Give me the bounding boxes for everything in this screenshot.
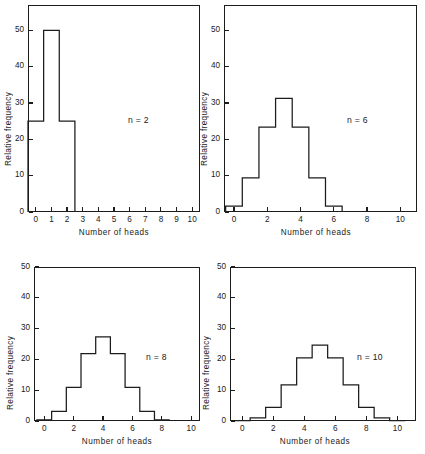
y-axis-tick <box>231 359 235 360</box>
y-axis-tick <box>225 66 229 67</box>
x-axis-tick <box>273 416 274 420</box>
y-axis-tick <box>225 139 229 140</box>
y-axis-tick <box>231 390 235 391</box>
x-axis-tick <box>300 207 301 211</box>
y-axis-tick <box>35 297 39 298</box>
x-axis-tick <box>176 207 177 211</box>
x-axis-tick <box>73 416 74 420</box>
y-axis-tick-label: 20 <box>10 354 30 363</box>
y-axis-tick-label: 0 <box>10 416 30 425</box>
x-axis-tick <box>397 416 398 420</box>
x-axis-tick-label: 0 <box>34 424 54 433</box>
x-axis-tick <box>191 416 192 420</box>
y-axis-tick-label: 0 <box>4 207 24 216</box>
y-axis-tick-label: 20 <box>200 134 220 143</box>
x-axis-tick-label: 0 <box>232 424 252 433</box>
y-axis-tick-label: 10 <box>200 170 220 179</box>
y-axis-tick <box>29 139 33 140</box>
x-axis-tick-label: 8 <box>152 424 172 433</box>
x-axis-tick <box>98 207 99 211</box>
y-axis-tick-label: 50 <box>206 262 226 271</box>
y-axis-tick <box>35 359 39 360</box>
y-axis-tick-label: 10 <box>10 385 30 394</box>
x-axis-tick <box>35 207 36 211</box>
chart-panel-n2: n = 2 <box>28 5 200 212</box>
y-axis-tick-label: 20 <box>206 354 226 363</box>
y-axis-label-n2: Relative frequency <box>4 56 13 166</box>
y-axis-tick <box>29 102 33 103</box>
x-axis-tick-label: 2 <box>64 424 84 433</box>
sample-size-annotation: n = 2 <box>128 115 149 125</box>
x-axis-tick <box>242 416 243 420</box>
x-axis-label-n8: Number of heads <box>57 437 177 446</box>
x-axis-tick <box>267 207 268 211</box>
x-axis-tick <box>82 207 83 211</box>
y-axis-tick <box>225 30 229 31</box>
y-axis-tick-label: 0 <box>200 207 220 216</box>
x-axis-tick-label: 0 <box>224 215 244 224</box>
chart-panel-n6: n = 6 <box>224 5 417 212</box>
x-axis-tick <box>161 416 162 420</box>
x-axis-tick-label: 10 <box>387 424 407 433</box>
y-axis-tick <box>231 266 235 267</box>
x-axis-tick <box>129 207 130 211</box>
y-axis-tick <box>225 175 229 176</box>
x-axis-tick <box>145 207 146 211</box>
y-axis-tick-label: 40 <box>4 61 24 70</box>
x-axis-tick-label: 10 <box>182 215 202 224</box>
y-axis-tick-label: 50 <box>4 25 24 34</box>
x-axis-tick <box>335 416 336 420</box>
x-axis-tick <box>333 207 334 211</box>
sample-size-annotation: n = 8 <box>146 352 167 362</box>
x-axis-tick <box>102 416 103 420</box>
x-axis-tick-label: 2 <box>263 424 283 433</box>
x-axis-tick-label: 10 <box>181 424 201 433</box>
y-axis-tick-label: 40 <box>10 292 30 301</box>
x-axis-label-n2: Number of heads <box>54 228 174 237</box>
x-axis-tick <box>66 207 67 211</box>
x-axis-tick-label: 8 <box>357 215 377 224</box>
y-axis-tick <box>35 420 39 421</box>
y-axis-tick <box>29 66 33 67</box>
x-axis-tick-label: 8 <box>356 424 376 433</box>
y-axis-tick-label: 50 <box>200 25 220 34</box>
x-axis-tick <box>51 207 52 211</box>
y-axis-tick-label: 20 <box>4 134 24 143</box>
y-axis-tick <box>35 390 39 391</box>
chart-panel-n8: n = 8 <box>34 267 200 421</box>
x-axis-tick <box>366 416 367 420</box>
x-axis-tick <box>132 416 133 420</box>
x-axis-tick-label: 4 <box>93 424 113 433</box>
histogram-outline <box>224 5 417 212</box>
y-axis-tick <box>29 30 33 31</box>
x-axis-tick <box>400 207 401 211</box>
x-axis-tick <box>192 207 193 211</box>
sample-size-annotation: n = 6 <box>347 115 368 125</box>
y-axis-tick-label: 50 <box>10 262 30 271</box>
x-axis-tick <box>304 416 305 420</box>
x-axis-tick-label: 4 <box>291 215 311 224</box>
x-axis-label-n6: Number of heads <box>256 228 376 237</box>
x-axis-tick-label: 6 <box>324 215 344 224</box>
binomial-histograms-figure: n = 2 Relative frequency Number of heads… <box>0 0 425 454</box>
y-axis-tick-label: 40 <box>200 61 220 70</box>
y-axis-tick-label: 30 <box>4 98 24 107</box>
x-axis-tick-label: 10 <box>390 215 410 224</box>
y-axis-label-n6: Relative frequency <box>200 56 209 166</box>
x-axis-label-n10: Number of heads <box>255 437 375 446</box>
x-axis-tick <box>44 416 45 420</box>
chart-panel-n10: n = 10 <box>230 267 416 421</box>
y-axis-tick <box>231 420 235 421</box>
x-axis-tick-label: 6 <box>325 424 345 433</box>
y-axis-tick-label: 0 <box>206 416 226 425</box>
histogram-outline <box>230 267 416 421</box>
y-axis-tick-label: 30 <box>10 323 30 332</box>
x-axis-tick <box>366 207 367 211</box>
y-axis-tick-label: 30 <box>200 98 220 107</box>
x-axis-tick-label: 6 <box>122 424 142 433</box>
y-axis-tick-label: 10 <box>206 385 226 394</box>
y-axis-tick-label: 30 <box>206 323 226 332</box>
sample-size-annotation: n = 10 <box>357 352 383 362</box>
x-axis-tick <box>160 207 161 211</box>
x-axis-tick <box>113 207 114 211</box>
